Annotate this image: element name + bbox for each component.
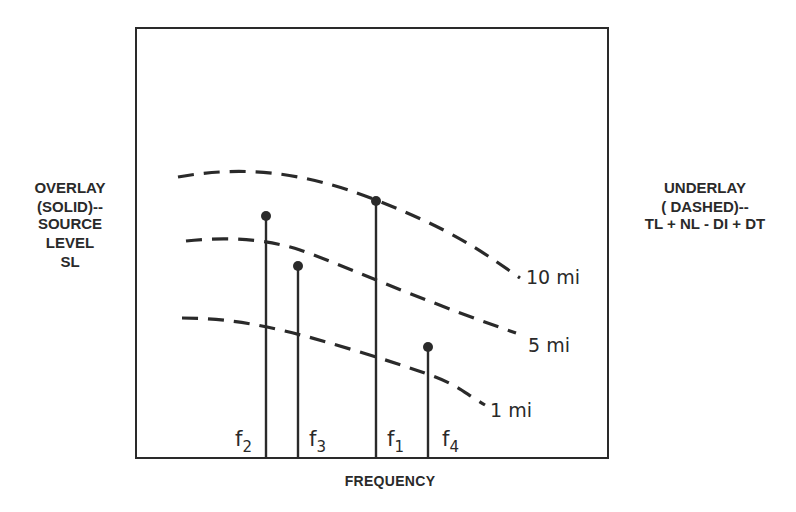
dashed-curves — [178, 171, 520, 405]
curve-label-5mi: 5 mi — [528, 334, 570, 356]
stem-label-f2: f2 — [235, 427, 252, 456]
stem-label-f4: f4 — [442, 427, 459, 456]
curve-10mi — [178, 171, 520, 278]
dot-f2 — [261, 211, 271, 221]
stems — [266, 201, 428, 458]
diagram-canvas: 10 mi 5 mi 1 mi f2 f3 f1 f4 — [0, 0, 796, 512]
curve-5mi — [186, 239, 516, 333]
dot-f3 — [293, 261, 303, 271]
dot-f4 — [423, 342, 433, 352]
curve-label-10mi: 10 mi — [526, 266, 580, 288]
x-axis-label: FREQUENCY — [320, 473, 460, 489]
stem-label-f1: f1 — [387, 427, 404, 456]
curve-label-1mi: 1 mi — [490, 399, 532, 421]
stem-label-f3: f3 — [309, 427, 326, 456]
dot-f1 — [371, 196, 381, 206]
plot-frame — [136, 28, 608, 458]
curve-1mi — [182, 318, 485, 405]
stem-dots — [261, 196, 433, 352]
